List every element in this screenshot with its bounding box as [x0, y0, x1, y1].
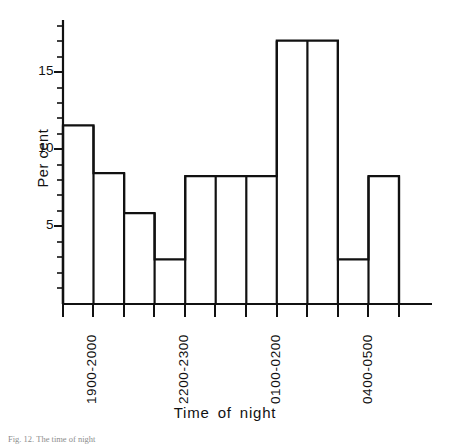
x-tick-label-1900-2000: 1900-2000 [84, 334, 99, 404]
x-tick-label-group: 1900-2000 2200-2300 0100-0200 0400-0500 [0, 312, 450, 412]
x-tick-label-2200-2300: 2200-2300 [176, 334, 191, 404]
y-major-ticks [54, 72, 63, 226]
histogram-figure: Per cent 15 10 5 [0, 0, 450, 447]
x-axis-title: Time of night [0, 404, 450, 421]
x-tick-label-0100-0200: 0100-0200 [268, 334, 283, 404]
x-tick-label-0400-0500: 0400-0500 [360, 334, 375, 404]
histogram-outline [63, 41, 399, 304]
histogram-bars [63, 41, 399, 304]
figure-caption: Fig. 12. The time of night [8, 434, 448, 444]
